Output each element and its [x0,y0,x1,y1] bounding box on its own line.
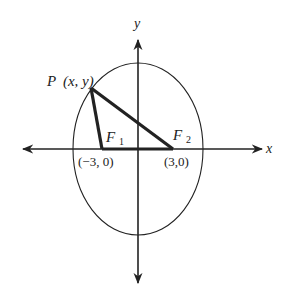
focus-1-name: F [105,129,116,145]
point-p-coords: (x, y) [63,73,94,90]
focus-2-subscript: 2 [186,134,191,145]
y-axis-label: y [132,16,141,31]
segment-p-f1 [91,88,102,149]
point-p-label: P (x, y) [46,73,94,90]
focus-2-label: F 2 [172,127,191,145]
focus-2-coords: (3,0) [164,154,189,169]
focus-1-coords: (−3, 0) [78,154,114,169]
focus-2-name: F [172,127,183,143]
focus-1-subscript: 1 [119,136,124,147]
focus-1-label: F 1 [105,129,124,147]
point-p-name: P [46,73,56,89]
x-axis-label: x [265,141,273,156]
segment-p-f2 [91,88,173,149]
ellipse-diagram: y x P (x, y) F 1 (−3, 0) F 2 (3,0) [0,0,295,293]
